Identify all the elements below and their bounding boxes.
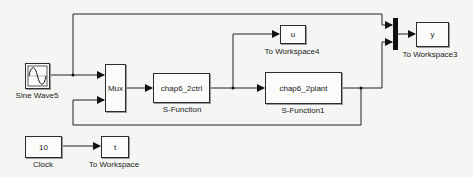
block-text: u	[291, 30, 295, 39]
clock-block[interactable]: 10	[25, 136, 62, 158]
to-workspace-u-block[interactable]: u	[280, 25, 306, 44]
s-function-ctrl-block[interactable]: chap6_2ctrl	[153, 73, 210, 103]
s-function-plant-block[interactable]: chap6_2plant	[265, 72, 342, 104]
signal-lines	[0, 0, 473, 177]
line-plant-to-bus	[342, 42, 392, 88]
sine-wave-block[interactable]	[25, 63, 50, 89]
to-workspace-t-block[interactable]: t	[101, 136, 129, 158]
sine-wave-icon	[27, 65, 48, 87]
block-label: S-Function	[163, 105, 202, 114]
mux-block[interactable]: Mux	[105, 64, 126, 112]
block-text: 10	[39, 143, 48, 152]
block-label: To Workspace3	[403, 50, 458, 59]
block-text: Mux	[108, 84, 123, 93]
block-text: t	[114, 143, 116, 152]
mux-bar-block[interactable]	[393, 18, 398, 50]
block-label: Clock	[33, 160, 53, 169]
block-label: S-Function1	[281, 106, 324, 115]
block-label: To Workspace	[89, 160, 140, 169]
block-label: To Workspace4	[265, 47, 320, 56]
to-workspace-y-block[interactable]: y	[416, 22, 449, 47]
block-label: Sine Wave5	[16, 91, 59, 100]
junction-dot	[232, 87, 235, 90]
junction-dot	[72, 74, 75, 77]
block-text: y	[431, 30, 435, 39]
junction-dot	[360, 87, 363, 90]
block-text: chap6_2ctrl	[161, 84, 202, 93]
block-text: chap6_2plant	[279, 84, 327, 93]
